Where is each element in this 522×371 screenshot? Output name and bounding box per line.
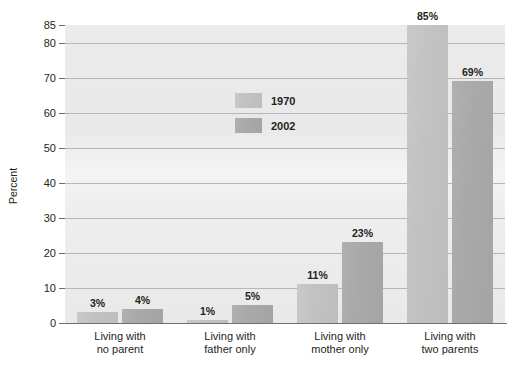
y-tick-label-60: 60 [0,107,65,119]
category-label-line-1: Living with [65,330,175,343]
category-label-line-2: father only [175,343,285,356]
legend-swatch-2002-icon [235,118,262,133]
bar-value-label-1970-4: 85% [417,10,438,22]
category-label-line-2: no parent [65,343,175,356]
category-label-2: Living withfather only [175,330,285,356]
category-label-line-1: Living with [395,330,505,343]
bar-value-label-2002-4: 69% [462,66,483,78]
bar-2002-2[interactable]: 5% [232,305,273,323]
category-label-line-2: two parents [395,343,505,356]
bar-2002-1[interactable]: 4% [122,309,163,323]
bar-2002-4[interactable]: 69% [452,81,493,323]
x-axis-line [65,323,507,324]
legend-item-2002: 2002 [235,118,295,133]
legend: 1970 2002 [235,93,295,143]
bar-value-label-2002-3: 23% [352,227,373,239]
bar-chart: Percent 0102030405060708085 3%4%1%5%11%2… [0,0,522,371]
bar-1970-3[interactable]: 11% [297,284,338,323]
category-label-3: Living withmother only [285,330,395,356]
bar-1970-4[interactable]: 85% [407,25,448,323]
category-label-1: Living withno parent [65,330,175,356]
y-tick-label-80: 80 [0,37,65,49]
y-tick-label-85: 85 [0,19,65,31]
y-tick-label-30: 30 [0,212,65,224]
bar-value-label-1970-2: 1% [200,305,215,317]
legend-item-1970: 1970 [235,93,295,108]
y-tick-label-70: 70 [0,72,65,84]
y-tick-label-0: 0 [0,317,65,329]
y-tick-label-10: 10 [0,282,65,294]
bar-2002-3[interactable]: 23% [342,242,383,323]
legend-label-2002: 2002 [271,120,295,132]
legend-label-1970: 1970 [271,95,295,107]
y-tick-label-20: 20 [0,247,65,259]
bar-value-label-1970-1: 3% [90,297,105,309]
category-label-4: Living withtwo parents [395,330,505,356]
bar-value-label-2002-2: 5% [245,290,260,302]
bar-value-label-2002-1: 4% [135,294,150,306]
y-tick-label-50: 50 [0,142,65,154]
bar-value-label-1970-3: 11% [307,269,327,281]
category-label-line-2: mother only [285,343,395,356]
legend-swatch-1970-icon [235,93,262,108]
bar-1970-1[interactable]: 3% [77,312,118,323]
plot-area: 3%4%1%5%11%23%85%69% 1970 2002 [65,25,505,323]
category-label-line-1: Living with [175,330,285,343]
y-tick-label-40: 40 [0,177,65,189]
category-label-line-1: Living with [285,330,395,343]
